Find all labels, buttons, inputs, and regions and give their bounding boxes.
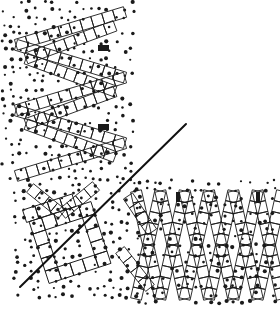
lattice-diagram-canvas [0, 0, 280, 311]
figure-root: Dithered zigzag lattice diagram Monochro… [0, 0, 280, 311]
